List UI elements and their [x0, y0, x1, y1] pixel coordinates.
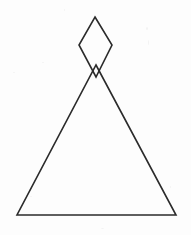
drawing-canvas — [0, 0, 191, 235]
geometric-figure — [0, 0, 191, 235]
rhombus-shape — [79, 17, 112, 77]
triangle-shape — [17, 65, 176, 215]
shape-group — [17, 17, 176, 215]
